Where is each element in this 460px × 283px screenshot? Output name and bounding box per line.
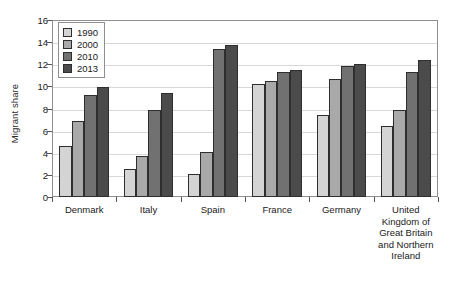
x-axis-label-italy: Italy <box>116 204 180 216</box>
bar <box>354 64 366 197</box>
legend-swatch-icon <box>63 28 72 37</box>
legend-item-1990: 1990 <box>63 26 98 38</box>
x-tick-mark <box>116 197 117 202</box>
x-axis-label-spain: Spain <box>181 204 245 216</box>
x-label-line: Italy <box>116 204 180 216</box>
legend-item-2000: 2000 <box>63 38 98 50</box>
bar <box>213 49 225 197</box>
x-axis-label-denmark: Denmark <box>52 204 116 216</box>
legend-swatch-icon <box>63 52 72 61</box>
bar <box>381 126 393 197</box>
bar <box>200 152 212 197</box>
y-tick-label: 8 <box>8 103 48 114</box>
y-tick-label: 4 <box>8 147 48 158</box>
x-tick-mark <box>309 197 310 202</box>
x-tick-mark <box>374 197 375 202</box>
bar <box>341 66 353 197</box>
legend: 1990200020102013 <box>58 22 105 78</box>
legend-swatch-icon <box>63 40 72 49</box>
legend-swatch-icon <box>63 64 72 73</box>
x-tick-mark <box>438 197 439 202</box>
bar <box>136 156 148 197</box>
bar-group <box>245 20 309 197</box>
y-tick-label: 0 <box>8 192 48 203</box>
bar <box>161 93 173 197</box>
x-label-line: France <box>245 204 309 216</box>
bar <box>124 169 136 197</box>
x-axis-label-germany: Germany <box>309 204 373 216</box>
bar <box>84 95 96 197</box>
y-tick-label: 2 <box>8 169 48 180</box>
x-label-line: Germany <box>309 204 373 216</box>
migrant-share-bar-chart: Migrant share 0246810121416 DenmarkItaly… <box>0 0 460 283</box>
y-tick-label: 14 <box>8 37 48 48</box>
x-label-line: Kingdom of <box>374 216 438 228</box>
bars-layer <box>52 20 438 197</box>
bar <box>406 72 418 197</box>
y-tick-label: 16 <box>8 15 48 26</box>
y-tick-label: 12 <box>8 59 48 70</box>
bar <box>225 45 237 197</box>
bar <box>252 84 264 197</box>
bar <box>290 70 302 197</box>
bar <box>97 87 109 197</box>
x-label-line: Great Britain <box>374 227 438 239</box>
x-label-line: Ireland <box>374 250 438 262</box>
y-tick-label: 6 <box>8 125 48 136</box>
bar-group <box>309 20 373 197</box>
legend-item-2010: 2010 <box>63 50 98 62</box>
x-label-line: United <box>374 204 438 216</box>
bar <box>72 121 84 197</box>
bar-group <box>181 20 245 197</box>
bar <box>59 146 71 197</box>
x-label-line: and Northern <box>374 239 438 251</box>
bar-group <box>116 20 180 197</box>
x-axis-label-united: UnitedKingdom ofGreat Britainand Norther… <box>374 204 438 262</box>
legend-label: 2010 <box>77 51 98 62</box>
x-label-line: Denmark <box>52 204 116 216</box>
x-tick-mark <box>245 197 246 202</box>
bar <box>393 110 405 197</box>
bar <box>329 79 341 197</box>
legend-label: 2000 <box>77 39 98 50</box>
bar <box>148 110 160 197</box>
legend-item-2013: 2013 <box>63 62 98 74</box>
bar <box>277 72 289 197</box>
legend-label: 1990 <box>77 27 98 38</box>
x-tick-mark <box>52 197 53 202</box>
bar <box>418 60 430 197</box>
bar <box>188 174 200 197</box>
x-label-line: Spain <box>181 204 245 216</box>
legend-label: 2013 <box>77 63 98 74</box>
x-axis-label-france: France <box>245 204 309 216</box>
x-tick-mark <box>181 197 182 202</box>
y-tick-label: 10 <box>8 81 48 92</box>
bar <box>265 81 277 197</box>
bar-group <box>374 20 438 197</box>
bar <box>317 115 329 197</box>
